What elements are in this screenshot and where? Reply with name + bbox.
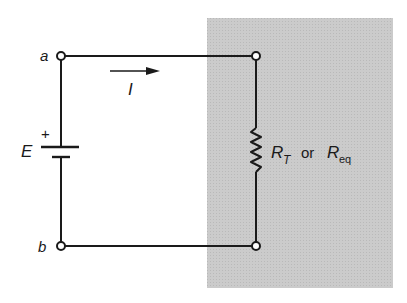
node-top-right-terminal bbox=[252, 52, 260, 60]
node-b-label: b bbox=[38, 238, 46, 255]
resistor-label-sub-eq: eq bbox=[339, 153, 351, 165]
resistor-label-r2: R bbox=[327, 143, 339, 162]
circuit-diagram: a b I + E R T or R eq bbox=[0, 0, 407, 303]
node-b-terminal bbox=[57, 242, 65, 250]
resistor-label-r1: R bbox=[271, 143, 283, 162]
current-label: I bbox=[128, 80, 133, 99]
equivalent-resistance-region bbox=[207, 18, 393, 288]
node-a-label: a bbox=[40, 47, 48, 64]
source-label: E bbox=[21, 142, 33, 161]
current-arrow-head bbox=[146, 67, 160, 75]
node-bottom-right-terminal bbox=[252, 242, 260, 250]
source-plus-sign: + bbox=[41, 125, 50, 142]
node-a-terminal bbox=[57, 52, 65, 60]
resistor-label-or: or bbox=[301, 144, 314, 161]
